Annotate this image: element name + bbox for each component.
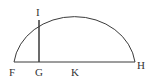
label-F: F (9, 66, 15, 78)
label-K: K (71, 66, 79, 78)
label-H: H (137, 59, 145, 71)
label-I: I (36, 6, 40, 18)
label-G: G (35, 66, 43, 78)
semicircle-arc (14, 17, 135, 62)
geometry-diagram: F G K H I (0, 0, 154, 83)
